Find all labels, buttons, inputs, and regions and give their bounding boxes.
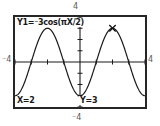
calculator-screen[interactable]: Y1=⁻3cos(πX/2) X=2 Y=3	[13, 15, 147, 109]
trace-cursor-icon	[109, 25, 115, 31]
window-label-ymax: 4	[73, 2, 78, 11]
window-label-ymin: ⁻4	[72, 113, 81, 122]
window-label-xmax: 4	[148, 55, 153, 64]
graph-plot-area[interactable]	[15, 17, 145, 107]
window-label-xmin: ⁻4	[2, 55, 11, 64]
trace-x-readout: X=2	[16, 96, 36, 105]
trace-y-readout: Y=3	[79, 96, 98, 105]
calculator-screenshot: 4 ⁻4 4 ⁻4 Y1=⁻3cos(πX/2) X=2 Y=3	[0, 0, 160, 126]
equation-label: Y1=⁻3cos(πX/2)	[16, 18, 85, 27]
